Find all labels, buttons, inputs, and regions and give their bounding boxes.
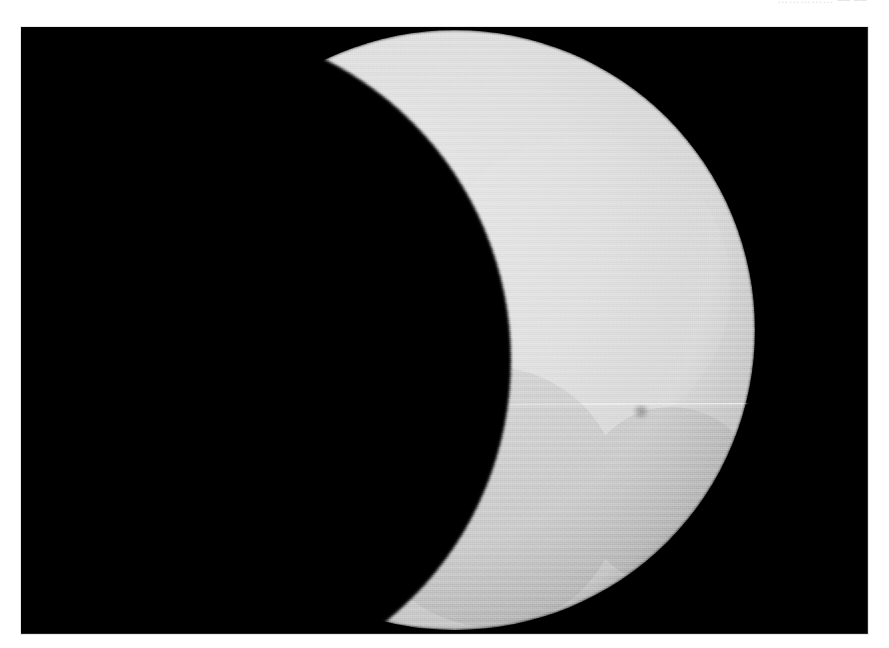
eclipse-scene: [21, 27, 868, 634]
frame-edge-bottom: [21, 633, 868, 634]
page-header-strip: …………… –– ––: [0, 0, 889, 8]
page-header-clipped-text: …………… –– ––: [777, 0, 867, 5]
eclipse-photograph-frame: [21, 27, 868, 634]
frame-edge-right: [867, 27, 868, 634]
